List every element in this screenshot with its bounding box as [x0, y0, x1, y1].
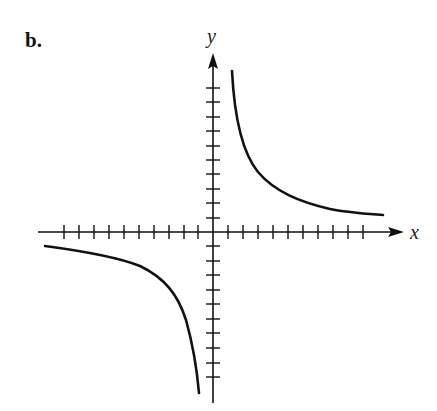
hyperbola-graph: x y: [0, 0, 437, 411]
lower-branch-curve: [45, 246, 199, 393]
y-axis: [206, 53, 220, 403]
upper-branch-curve: [232, 71, 383, 215]
y-axis-label: y: [205, 25, 216, 48]
x-axis: [38, 225, 404, 239]
x-axis-label: x: [409, 221, 419, 243]
